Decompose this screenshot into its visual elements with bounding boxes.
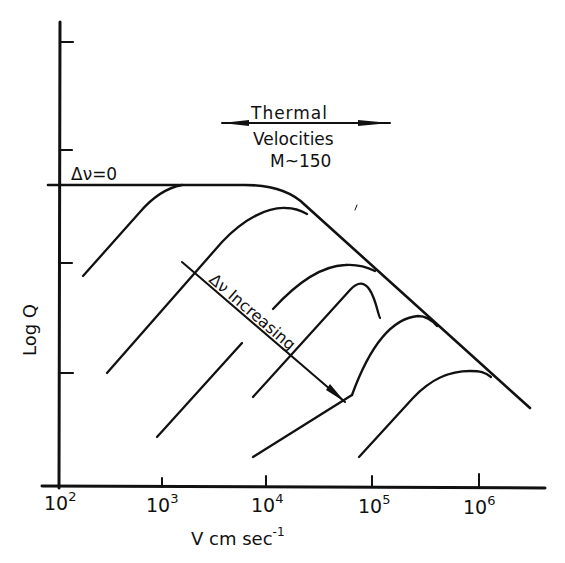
curve-1: [83, 185, 182, 276]
left-arrowhead-icon: [222, 120, 249, 126]
y-axis-label: Log Q: [19, 304, 40, 356]
right-arrowhead-icon: [358, 120, 390, 126]
log-q-vs-velocity-diagram: 102 103 104 105 106 V cm sec-1 Log Q Δν=…: [0, 0, 565, 563]
curve-segment: [157, 343, 242, 437]
baseline-label: Δν=0: [71, 164, 117, 184]
curve-segment-lower: [253, 395, 352, 457]
curve-5: [359, 371, 491, 457]
x-tick-label: 105: [358, 492, 390, 517]
envelope-curve-delta-nu-zero: [48, 185, 530, 408]
thermal-velocities-annotation: Thermal Velocities M~150: [222, 103, 390, 171]
arrowhead-icon: [326, 384, 345, 402]
x-axis-label: V cm sec-1: [191, 525, 285, 549]
x-axis: [42, 474, 545, 488]
mass-label: M~150: [270, 151, 331, 171]
x-tick-labels: 102 103 104 105 106: [44, 489, 495, 518]
x-tick-label: 103: [146, 491, 178, 516]
stray-mark: [355, 205, 357, 210]
thermal-label: Thermal: [250, 103, 328, 123]
x-tick-label: 104: [251, 491, 283, 516]
x-tick-label: 102: [44, 489, 76, 514]
y-axis: [59, 22, 73, 488]
x-tick-label: 106: [463, 493, 495, 518]
curve-3: [273, 265, 375, 309]
curve-2: [107, 208, 307, 373]
curve-4b: [352, 316, 437, 395]
increasing-label: Δν Increasing: [205, 270, 299, 354]
velocities-label: Velocities: [253, 129, 334, 149]
